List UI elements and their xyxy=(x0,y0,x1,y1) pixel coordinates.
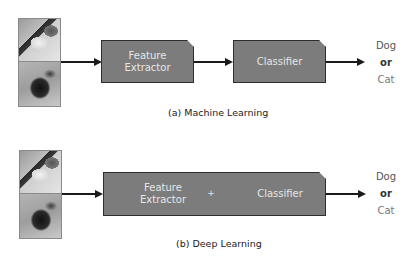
caption-machine-learning: (a) Machine Learning xyxy=(168,107,268,118)
output-or-label: or xyxy=(368,188,404,200)
output-dog-label: Dog xyxy=(368,40,404,52)
feature-extractor-label: Feature Extractor xyxy=(128,182,198,206)
output-cat-label: Cat xyxy=(368,205,404,217)
output-cat-label: Cat xyxy=(368,74,404,86)
dog-photo-icon xyxy=(19,193,62,239)
arrow-model-to-output xyxy=(326,193,359,195)
arrow-extractor-to-classifier xyxy=(194,61,226,63)
feature-extractor-label-line2: Extractor xyxy=(128,194,198,206)
plus-sign: + xyxy=(206,187,216,199)
classifier-label: Classifier xyxy=(257,56,303,68)
feature-extractor-label-line1: Feature xyxy=(129,50,167,62)
arrow-head-icon xyxy=(358,190,366,198)
arrow-head-icon xyxy=(357,58,365,66)
arrow-input-to-extractor xyxy=(61,61,95,63)
dog-photo-icon xyxy=(18,61,61,107)
feature-extractor-label-line2: Extractor xyxy=(124,62,170,74)
arrow-head-icon xyxy=(225,58,233,66)
cat-photo-icon xyxy=(18,18,61,62)
classifier-box: Classifier xyxy=(233,40,326,83)
classifier-label: Classifier xyxy=(245,188,315,200)
arrow-classifier-to-output xyxy=(326,61,358,63)
arrow-head-icon xyxy=(95,190,103,198)
feature-extractor-label-line1: Feature xyxy=(128,182,198,194)
caption-deep-learning: (b) Deep Learning xyxy=(176,238,262,249)
arrow-head-icon xyxy=(94,58,102,66)
feature-extractor-box: Feature Extractor xyxy=(101,40,194,83)
output-or-label: or xyxy=(368,57,404,69)
arrow-input-to-model xyxy=(62,193,96,195)
cat-photo-icon xyxy=(19,150,62,194)
output-dog-label: Dog xyxy=(368,171,404,183)
